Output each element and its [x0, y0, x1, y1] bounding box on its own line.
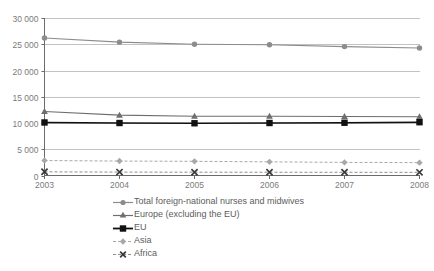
chart-legend: Total foreign-national nurses and midwiv…: [112, 195, 412, 260]
diamond-data-point-marker: [116, 158, 122, 164]
x-axis-tick-label: 2004: [110, 180, 129, 190]
data-series-markers: [41, 35, 423, 175]
y-axis-tick-label: 10 000: [13, 119, 39, 129]
diamond-data-point-marker: [341, 159, 347, 165]
y-axis-tick-label: 15 000: [13, 93, 39, 103]
triangle-line-marker-icon: [112, 208, 134, 221]
square-data-point-marker: [191, 120, 197, 126]
diamond-dashed-line-marker-icon: [112, 234, 134, 247]
legend-item-africa[interactable]: Africa: [112, 247, 412, 260]
x-axis-tick-label: 2008: [410, 180, 429, 190]
legend-item-label: EU: [134, 221, 147, 234]
x-axis-tick-labels: 200320042005200620072008: [35, 180, 429, 190]
series-line-europe_non_eu: [45, 111, 420, 116]
series-line-total: [45, 38, 420, 48]
legend-item-label: Africa: [134, 247, 157, 260]
cross-dashed-line-marker-icon: [112, 247, 134, 260]
x-axis-tick-label: 2007: [335, 180, 354, 190]
circle-data-point-marker: [417, 45, 422, 50]
legend-item-europe-non-eu[interactable]: Europe (excluding the EU): [112, 208, 412, 221]
y-axis-tick-label: 25 000: [13, 40, 39, 50]
series-line-africa: [45, 172, 420, 173]
y-axis-tick-labels: 05 00010 00015 00020 00025 00030 000: [13, 14, 39, 182]
diamond-data-point-marker: [191, 158, 197, 164]
circle-line-marker-icon: [112, 195, 134, 208]
square-data-point-marker: [41, 119, 47, 125]
square-line-marker-icon: [112, 221, 134, 234]
x-axis-tick-label: 2003: [35, 180, 54, 190]
line-chart: 05 00010 00015 00020 00025 00030 000 200…: [0, 0, 434, 271]
square-data-point-marker: [341, 120, 347, 126]
circle-data-point-marker: [117, 39, 122, 44]
series-line-eu: [45, 122, 420, 123]
x-axis-ticks: [45, 176, 420, 180]
legend-item-label: Europe (excluding the EU): [134, 208, 240, 221]
legend-item-eu[interactable]: EU: [112, 221, 412, 234]
circle-data-point-marker: [192, 42, 197, 47]
square-data-point-marker: [416, 119, 422, 125]
x-axis-tick-label: 2006: [260, 180, 279, 190]
circle-data-point-marker: [342, 44, 347, 49]
legend-item-total[interactable]: Total foreign-national nurses and midwiv…: [112, 195, 412, 208]
legend-item-asia[interactable]: Asia: [112, 234, 412, 247]
diamond-data-point-marker: [416, 159, 422, 165]
data-series-lines: [45, 38, 420, 172]
x-axis-tick-label: 2005: [185, 180, 204, 190]
gridlines: [45, 19, 421, 150]
legend-item-label: Asia: [134, 234, 152, 247]
diamond-data-point-marker: [266, 159, 272, 165]
y-axis-tick-label: 5 000: [17, 145, 39, 155]
series-line-asia: [45, 161, 420, 163]
legend-item-label: Total foreign-national nurses and midwiv…: [134, 195, 304, 208]
square-data-point-marker: [266, 120, 272, 126]
circle-data-point-marker: [42, 35, 47, 40]
diamond-data-point-marker: [41, 157, 47, 163]
square-data-point-marker: [116, 120, 122, 126]
y-axis-tick-label: 20 000: [13, 67, 39, 77]
circle-data-point-marker: [267, 42, 272, 47]
y-axis-tick-label: 30 000: [13, 14, 39, 24]
